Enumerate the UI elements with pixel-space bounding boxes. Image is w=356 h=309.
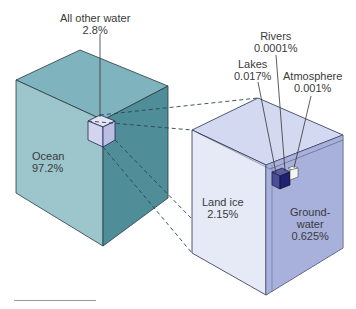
groundwater-name2: water xyxy=(290,218,330,230)
rivers-label: Rivers 0.0001% xyxy=(254,30,297,54)
rivers-name: Rivers xyxy=(254,30,297,42)
lakes-value: 0.017% xyxy=(234,70,271,82)
groundwater-value: 0.625% xyxy=(290,230,330,242)
rivers-value: 0.0001% xyxy=(254,42,297,54)
atmosphere-label: Atmosphere 0.001% xyxy=(283,70,342,94)
atmosphere-name: Atmosphere xyxy=(283,70,342,82)
lakes-name: Lakes xyxy=(234,58,271,70)
groundwater-label: Ground- water 0.625% xyxy=(290,206,330,242)
groundwater-name: Ground- xyxy=(290,206,330,218)
land-ice-label: Land ice 2.15% xyxy=(202,196,244,220)
ocean-label: Ocean 97.2% xyxy=(32,150,64,174)
caption-rule xyxy=(14,300,96,301)
other-water-label: All other water 2.8% xyxy=(60,12,130,36)
other-water-value: 2.8% xyxy=(60,24,130,36)
ocean-cube xyxy=(16,50,168,246)
lakes-cube xyxy=(272,168,290,189)
atmosphere-value: 0.001% xyxy=(283,82,342,94)
ocean-name: Ocean xyxy=(32,150,64,162)
lakes-label: Lakes 0.017% xyxy=(234,58,271,82)
land-ice-name: Land ice xyxy=(202,196,244,208)
other-water-name: All other water xyxy=(60,12,130,24)
land-ice-value: 2.15% xyxy=(202,208,244,220)
other-water-cube xyxy=(88,115,115,147)
ocean-value: 97.2% xyxy=(32,162,64,174)
